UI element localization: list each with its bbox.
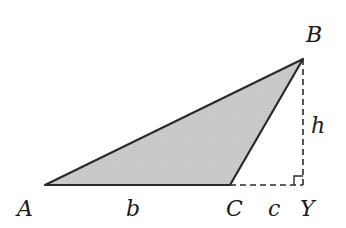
segment-label-b: b xyxy=(126,196,140,221)
vertex-label-c: C xyxy=(226,196,243,221)
vertex-label-b: B xyxy=(305,22,322,47)
segment-label-c: c xyxy=(268,196,280,221)
vertex-label-y: Y xyxy=(300,196,317,221)
triangle-abc xyxy=(45,59,303,185)
vertex-label-a: A xyxy=(15,196,33,221)
segment-label-h: h xyxy=(311,113,325,138)
diagram-svg: A B C Y b c h xyxy=(0,0,346,228)
triangle-diagram: A B C Y b c h xyxy=(0,0,346,228)
right-angle-marker xyxy=(294,176,303,185)
